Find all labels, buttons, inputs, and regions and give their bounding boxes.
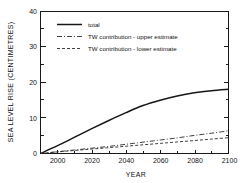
legend-label-tw-lower-estimate: TW contribution - lower estimate [88, 45, 177, 52]
series-line-tw-upper-estimate [41, 131, 229, 154]
legend-label-total: total [88, 21, 100, 28]
x-tick-label: 2020 [84, 157, 100, 164]
x-tick-label: 2080 [187, 157, 203, 164]
y-tick-label: 30 [29, 43, 37, 50]
chart-figure: 0 10 20 30 40 2000 2020 2040 2060 2080 2… [0, 0, 246, 183]
legend: total TW contribution - upper estimate T… [57, 21, 178, 52]
data-series-group [41, 89, 229, 153]
x-tick-label: 2040 [119, 157, 135, 164]
x-tick-label: 2000 [50, 157, 66, 164]
x-axis-title: YEAR [126, 171, 146, 178]
x-tick-label: 2100 [222, 157, 238, 164]
y-tick-label: 40 [29, 8, 37, 15]
y-tick-label: 10 [29, 115, 37, 122]
y-tick-label: 0 [33, 150, 37, 157]
x-axis-tick-labels: 2000 2020 2040 2060 2080 2100 [50, 157, 237, 164]
y-axis-title: SEA LEVEL RISE (CENTIMETRES) [7, 22, 15, 143]
legend-label-tw-upper-estimate: TW contribution - upper estimate [88, 33, 178, 40]
y-tick-label: 20 [29, 79, 37, 86]
sea-level-rise-line-chart: 0 10 20 30 40 2000 2020 2040 2060 2080 2… [0, 0, 246, 183]
series-line-total [41, 89, 229, 153]
x-tick-label: 2060 [153, 157, 169, 164]
y-axis-tick-labels: 0 10 20 30 40 [29, 8, 37, 157]
